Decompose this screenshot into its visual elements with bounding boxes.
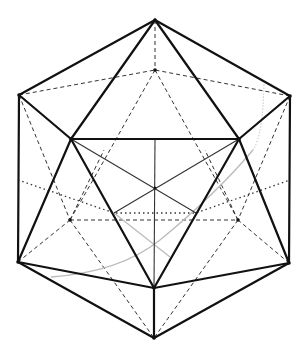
front-edge — [155, 20, 290, 96]
vertex — [69, 137, 73, 141]
vertex — [287, 261, 291, 265]
vertex — [236, 218, 240, 222]
front-edge — [18, 262, 154, 338]
vertex — [153, 18, 157, 22]
front-edge — [154, 263, 289, 338]
vertex — [68, 218, 72, 222]
vertex — [154, 187, 157, 190]
vertex — [17, 93, 21, 97]
hidden-edge — [155, 70, 216, 180]
icosahedron-diagram: Icosahedron wireframe — [0, 0, 307, 356]
hidden-edge — [155, 70, 290, 96]
hidden-edge — [70, 150, 104, 220]
front-edge — [18, 95, 19, 262]
hidden-edge — [70, 180, 93, 220]
front-edges — [18, 20, 290, 338]
hidden-edge — [154, 220, 238, 338]
guide-arc-dotted — [253, 84, 264, 150]
vertex — [152, 336, 156, 340]
vertex — [288, 94, 292, 98]
front-edge — [18, 139, 71, 262]
construction-line — [154, 139, 155, 288]
vertex — [153, 68, 157, 72]
front-edge — [289, 96, 290, 263]
hidden-edge — [18, 220, 70, 262]
hidden-edge — [93, 70, 155, 180]
vertex — [16, 260, 20, 264]
vertex — [152, 286, 156, 290]
front-edge — [155, 20, 239, 139]
front-edge — [19, 95, 71, 139]
front-edge — [239, 96, 290, 139]
front-edge — [18, 262, 154, 288]
front-edge — [19, 20, 155, 95]
vertex — [237, 137, 241, 141]
construction-lines — [71, 139, 239, 288]
guide-curve — [51, 84, 264, 277]
front-edge — [71, 20, 155, 139]
